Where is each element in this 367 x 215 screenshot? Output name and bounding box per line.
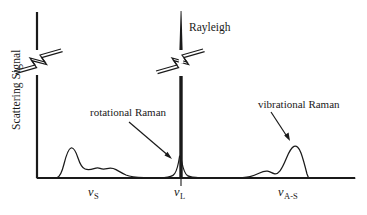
raman-spectrum-figure: Scattering Signal Rayleigh rotational Ra… xyxy=(0,0,367,215)
rotational-raman-arrow xyxy=(129,122,172,159)
x-tick-label-anti-stokes: νA-S xyxy=(278,186,297,199)
x-tick-label-stokes: νS xyxy=(88,186,98,199)
rayleigh-break-mask xyxy=(179,58,183,64)
nu-subscript: S xyxy=(94,191,99,201)
rayleigh-label: Rayleigh xyxy=(189,22,231,34)
vibrational-raman-label: vibrational Raman xyxy=(258,99,340,110)
x-tick-label-laser: νL xyxy=(174,186,185,199)
nu-symbol: ν xyxy=(88,185,94,199)
nu-symbol: ν xyxy=(174,185,180,199)
rayleigh-line-upper xyxy=(179,11,182,50)
y-axis-label: Scattering Signal xyxy=(11,40,23,140)
rotational-raman-label: rotational Raman xyxy=(90,107,166,118)
scattering-signal-curve xyxy=(37,146,355,178)
nu-subscript: A-S xyxy=(284,191,298,201)
vibrational-raman-arrow xyxy=(271,112,290,141)
nu-symbol: ν xyxy=(278,185,284,199)
nu-subscript: L xyxy=(180,191,185,201)
